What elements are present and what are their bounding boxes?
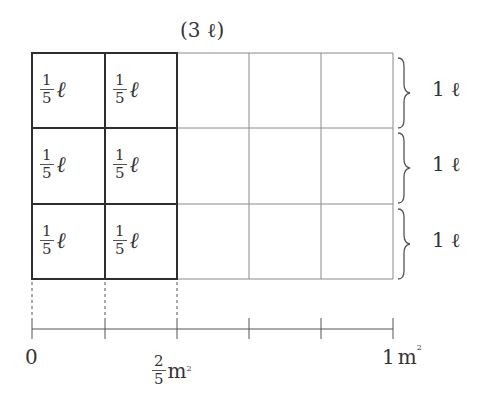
axis-start-label: 0: [25, 345, 38, 369]
cell-fraction: 15ℓ: [113, 223, 139, 258]
axis-fraction-label: 25m2: [152, 353, 192, 388]
cell-fraction: 15ℓ: [40, 147, 66, 182]
number-line: [32, 318, 393, 339]
dashed-guides: [32, 282, 177, 318]
cell-fraction: 15ℓ: [40, 223, 66, 258]
diagram-title: (3 ℓ): [180, 18, 224, 42]
cell-fraction: 15ℓ: [40, 72, 66, 107]
thin-grid: [177, 53, 393, 279]
row-label: 1 ℓ: [432, 152, 461, 176]
cell-fraction: 15ℓ: [113, 147, 139, 182]
cell-fraction: 15ℓ: [113, 72, 139, 107]
brace-icons: [398, 58, 410, 279]
row-label: 1 ℓ: [432, 228, 461, 252]
axis-end-label: 1m2: [382, 345, 422, 369]
row-label: 1 ℓ: [432, 77, 461, 101]
